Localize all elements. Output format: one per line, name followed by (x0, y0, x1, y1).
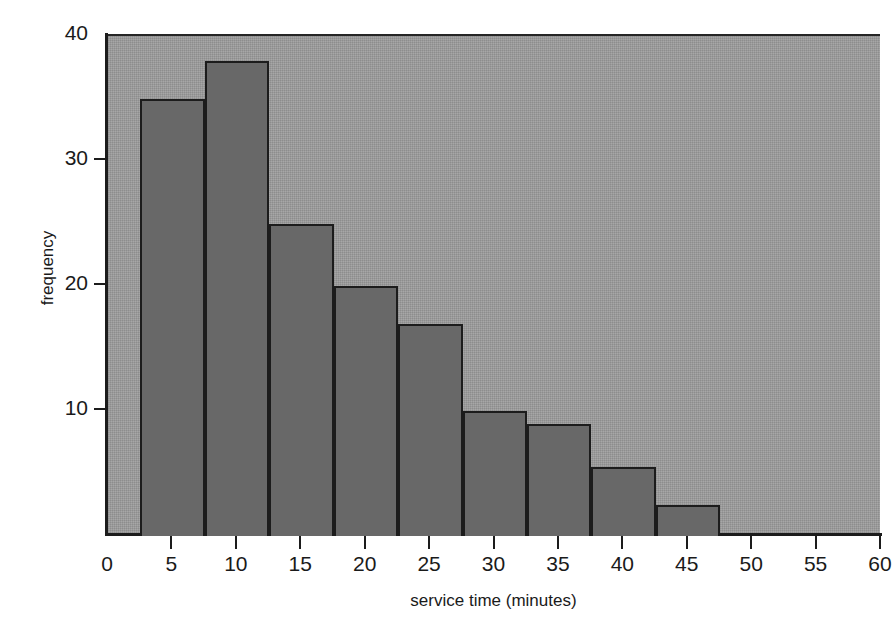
histogram-bar (527, 424, 591, 537)
x-axis-tick-label: 0 (77, 552, 137, 576)
plot-area (107, 34, 880, 536)
y-axis-tick-label: 40 (42, 21, 88, 45)
histogram-bar (398, 324, 462, 537)
y-axis-tick (94, 158, 106, 160)
histogram-figure: 10203040 051015202530354045505560 freque… (0, 0, 896, 624)
y-axis-tick (94, 408, 106, 410)
x-axis-tick (686, 536, 688, 549)
x-axis-tick-label: 45 (657, 552, 717, 576)
x-axis-tick-label: 60 (850, 552, 896, 576)
y-axis-tick-label: 10 (42, 396, 88, 420)
x-axis-tick-label: 50 (721, 552, 781, 576)
x-axis-tick (428, 536, 430, 549)
x-axis-tick (493, 536, 495, 549)
x-axis-tick-label: 35 (528, 552, 588, 576)
x-axis-tick-label: 30 (464, 552, 524, 576)
histogram-bar (591, 467, 655, 536)
x-axis-tick-label: 5 (141, 552, 201, 576)
x-axis-tick (170, 536, 172, 549)
x-axis-title: service time (minutes) (107, 591, 880, 611)
histogram-bar (269, 224, 333, 537)
x-axis-tick (299, 536, 301, 549)
y-axis-title: frequency (38, 198, 58, 338)
histogram-bar (140, 99, 204, 537)
x-axis-tick-label: 25 (399, 552, 459, 576)
histogram-bar (205, 61, 269, 536)
x-axis-tick (621, 536, 623, 549)
x-axis-tick (879, 536, 881, 549)
x-axis-tick-label: 20 (335, 552, 395, 576)
x-axis-tick-label: 55 (786, 552, 846, 576)
x-axis-tick-label: 10 (206, 552, 266, 576)
x-axis-tick-label: 15 (270, 552, 330, 576)
x-axis-tick (750, 536, 752, 549)
x-axis-tick-label: 40 (592, 552, 652, 576)
x-axis-tick (815, 536, 817, 549)
histogram-bar (463, 411, 527, 536)
x-axis-tick (235, 536, 237, 549)
x-axis-tick (364, 536, 366, 549)
y-axis-tick (94, 283, 106, 285)
histogram-bar (656, 505, 720, 536)
histogram-bar (334, 286, 398, 536)
y-axis-tick-label: 30 (42, 146, 88, 170)
x-axis-tick (557, 536, 559, 549)
